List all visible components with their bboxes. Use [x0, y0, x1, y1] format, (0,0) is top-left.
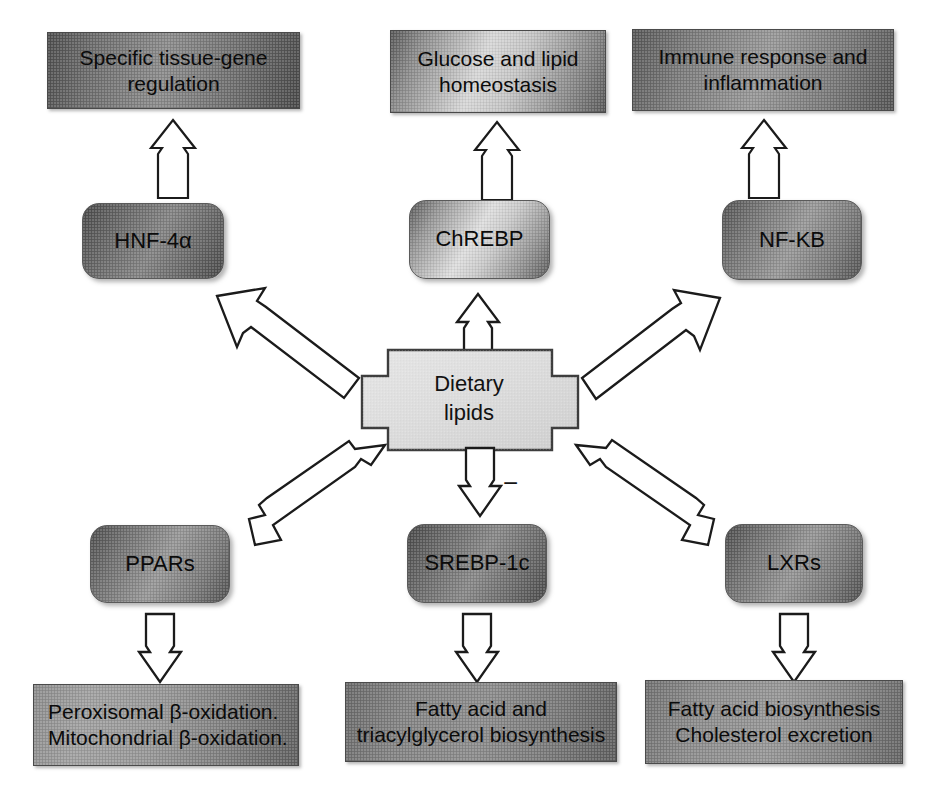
factor-box-ppars: PPARs	[90, 525, 230, 603]
outcome-box-beta-oxidation: Peroxisomal β-oxidation. Mitochondrial β…	[33, 684, 299, 766]
arrow-srebp1c-to-outcome	[453, 612, 501, 684]
outcome-box-tissue-gene-regulation: Specific tissue-gene regulation	[47, 32, 300, 109]
factor-label: PPARs	[119, 551, 200, 578]
factor-label: HNF-4α	[108, 228, 198, 255]
outcome-label: Specific tissue-gene regulation	[74, 45, 274, 96]
outcome-box-fa-tag-biosynthesis: Fatty acid and triacylglycerol biosynthe…	[345, 682, 617, 762]
arrow-ppars-to-outcome	[136, 612, 184, 684]
outcome-label: Immune response and inflammation	[653, 44, 874, 95]
outcome-box-immune-response-inflammation: Immune response and inflammation	[632, 29, 894, 111]
arrow-hnf4a-to-outcome	[148, 118, 198, 200]
outcome-box-glucose-lipid-homeostasis: Glucose and lipid homeostasis	[390, 30, 606, 113]
inhibition-sign: −	[503, 470, 518, 496]
arrow-chrebp-to-outcome	[472, 120, 522, 202]
factor-box-srebp1c: SREBP-1c	[407, 524, 547, 603]
figure-canvas: Specific tissue-gene regulation Glucose …	[0, 0, 928, 798]
outcome-label: Fatty acid biosynthesis Cholesterol excr…	[662, 696, 886, 747]
factor-box-chrebp: ChREBP	[409, 200, 550, 279]
outcome-label: Glucose and lipid homeostasis	[411, 46, 584, 97]
factor-box-lxrs: LXRs	[725, 524, 863, 603]
central-node-dietary-lipids: Dietary lipids	[358, 348, 580, 452]
outcome-box-fa-biosynthesis-cholesterol-excretion: Fatty acid biosynthesis Cholesterol excr…	[645, 680, 903, 764]
outcome-label: Fatty acid and triacylglycerol biosynthe…	[351, 696, 612, 747]
arrow-nfkb-to-outcome	[739, 118, 789, 200]
factor-label: ChREBP	[429, 226, 529, 253]
outcome-label: Peroxisomal β-oxidation. Mitochondrial β…	[34, 699, 294, 750]
factor-box-nfkb: NF-KB	[722, 200, 862, 280]
factor-box-hnf4a: HNF-4α	[82, 203, 224, 279]
central-node-label: Dietary lipids	[434, 370, 504, 427]
arrow-lipids-to-srebp1c	[456, 446, 504, 518]
factor-label: SREBP-1c	[418, 550, 535, 577]
arrow-lipids-to-nfkb	[578, 288, 724, 404]
factor-label: LXRs	[761, 550, 827, 577]
factor-label: NF-KB	[753, 227, 831, 254]
arrow-lipids-to-lxrs	[570, 437, 720, 551]
arrow-lxrs-to-outcome	[770, 612, 818, 684]
arrow-lipids-to-ppars	[243, 441, 389, 551]
arrow-lipids-to-hnf4a	[213, 284, 363, 402]
